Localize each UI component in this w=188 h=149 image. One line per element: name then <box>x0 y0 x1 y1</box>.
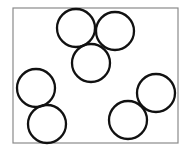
circle-groups <box>17 9 175 143</box>
circle-shape <box>109 101 147 139</box>
circle-shape <box>28 105 66 143</box>
circle-shape <box>57 9 95 47</box>
circle-shape <box>72 44 110 82</box>
diagram-canvas <box>0 0 188 149</box>
circle-shape <box>96 12 134 50</box>
top-cluster <box>57 9 134 82</box>
bottom-left-pair <box>17 69 66 143</box>
circle-shape <box>17 69 55 107</box>
bottom-right-pair <box>109 74 175 139</box>
